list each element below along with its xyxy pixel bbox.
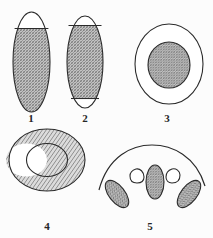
- figure-3-inner-core: [148, 42, 190, 88]
- figure-5-inclusion-left-ellipse: [101, 176, 133, 211]
- figure-3-group: [135, 24, 203, 104]
- figure-2-group: [67, 16, 103, 108]
- figure-label-4: 4: [37, 220, 57, 232]
- figure-plate: 1 2 3 4 5: [0, 0, 213, 238]
- figure-5-inclusion-left-teardrop: [130, 169, 144, 183]
- figure-5-inclusion-right-teardrop: [166, 169, 180, 183]
- figure-label-1: 1: [21, 112, 41, 124]
- figure-label-5: 5: [140, 220, 160, 232]
- figure-5-inclusion-center-ellipse: [146, 165, 164, 199]
- figure-label-3: 3: [157, 112, 177, 124]
- figure-4-group: [5, 125, 91, 197]
- figure-label-2: 2: [75, 112, 95, 124]
- figure-5-group: [99, 145, 205, 212]
- figure-1-group: [13, 12, 50, 112]
